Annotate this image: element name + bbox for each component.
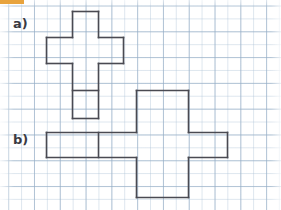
figure-label-b: b) xyxy=(13,133,28,146)
figure-label-a: a) xyxy=(13,17,28,30)
net-figure-a xyxy=(47,12,124,119)
net-figure-b xyxy=(47,91,228,198)
net-drawing-canvas xyxy=(0,0,281,210)
worksheet-page: a) b) xyxy=(0,0,281,210)
